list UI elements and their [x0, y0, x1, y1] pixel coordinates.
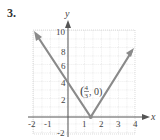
- graph: x y -2 -1 1 2 3 4 -2 2 4 6 8 10 ( 4 3 , …: [0, 0, 160, 140]
- y-tick: 8: [61, 47, 66, 57]
- x-tick: 4: [133, 119, 138, 129]
- x-axis-label: x: [150, 111, 156, 122]
- y-axis-label: y: [64, 8, 70, 19]
- y-tick: 10: [56, 27, 66, 37]
- vertex-point: [89, 115, 93, 119]
- x-tick: -2: [28, 119, 36, 129]
- x-tick: -1: [44, 119, 52, 129]
- y-axis-arrow-icon: [65, 20, 71, 28]
- x-axis-arrow-icon: [142, 114, 150, 120]
- annotation-numerator: 4: [85, 84, 89, 92]
- y-tick: 2: [61, 95, 66, 105]
- x-tick: 3: [116, 119, 121, 129]
- annotation-denominator: 3: [85, 92, 89, 100]
- annotation-rest: , 0): [89, 86, 102, 98]
- y-tick: -2: [57, 128, 65, 138]
- x-tick: 2: [99, 119, 104, 129]
- y-tick: 6: [61, 61, 66, 71]
- x-tick: 1: [82, 119, 87, 129]
